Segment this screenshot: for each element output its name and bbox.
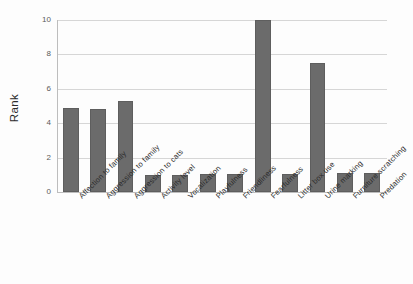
x-tick-label: Fearfulness [269,194,275,200]
x-tick-label: Furniture scratching [351,194,357,200]
bar [63,108,79,192]
x-tick-label: Affection to family [77,194,83,200]
y-tick-label: 8 [35,49,51,58]
x-tick-label: Playfulness [214,194,220,200]
y-axis-title: Rank [8,78,20,138]
x-axis-tick-labels: Affection to familyAggression to familyA… [57,194,386,284]
x-tick-label: Aggression to family [104,194,110,200]
x-tick-label: Activity level [159,194,165,200]
x-tick-label: Urine marking [323,194,329,200]
x-tick-label: Vocalization [186,194,192,200]
y-tick-label: 4 [35,118,51,127]
x-tick-label: Aggression to cats [132,194,138,200]
x-tick-label: Friendliness [241,194,247,200]
x-tick-label: Predation [378,194,384,200]
y-tick-label: 2 [35,153,51,162]
y-tick-label: 10 [35,15,51,24]
bar-chart: Rank 0246810 Affection to familyAggressi… [0,0,413,284]
y-tick-label: 6 [35,84,51,93]
y-tick-label: 0 [35,187,51,196]
x-tick-label: Litter box use [296,194,302,200]
